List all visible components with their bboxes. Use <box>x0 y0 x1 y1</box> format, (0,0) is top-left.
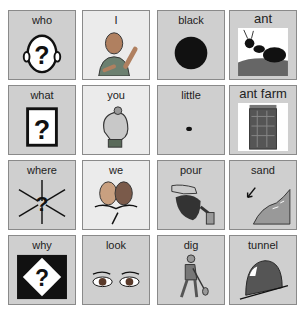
cell-label: you <box>83 89 149 101</box>
cell-we[interactable]: we <box>82 160 150 230</box>
cell-label: what <box>9 89 75 101</box>
cell-label: where <box>9 164 75 176</box>
symbol-board: who ? I black ant what ? you li <box>0 0 303 317</box>
cell-what[interactable]: what ? <box>8 85 76 155</box>
cell-label: we <box>83 164 149 176</box>
tunnel-icon <box>234 253 292 301</box>
cell-tunnel[interactable]: tunnel <box>229 235 297 305</box>
cell-why[interactable]: why ? <box>8 235 76 305</box>
cell-sand[interactable]: sand <box>229 160 297 230</box>
black-circle-icon <box>162 28 220 76</box>
question-arrows-icon: ? <box>13 178 71 226</box>
svg-text:?: ? <box>34 41 49 69</box>
ant-farm-icon <box>234 103 292 151</box>
small-dot-icon <box>162 103 220 151</box>
two-faces-icon <box>87 178 145 226</box>
question-diamond-icon: ? <box>13 253 71 301</box>
cell-label: ant farm <box>230 88 296 100</box>
cell-label: little <box>158 89 224 101</box>
cell-label: sand <box>230 164 296 176</box>
cell-who[interactable]: who ? <box>8 10 76 80</box>
person-self-icon <box>87 28 145 76</box>
cell-label: I <box>83 14 149 26</box>
cell-label: why <box>9 239 75 251</box>
cell-black[interactable]: black <box>157 10 225 80</box>
cell-i[interactable]: I <box>82 10 150 80</box>
svg-text:?: ? <box>36 192 49 215</box>
cell-ant-farm[interactable]: ant farm <box>229 85 297 155</box>
cell-label: ant <box>230 13 296 25</box>
svg-text:?: ? <box>34 115 50 145</box>
cell-label: dig <box>158 239 224 251</box>
question-head-icon: ? <box>13 28 71 76</box>
cell-ant[interactable]: ant <box>229 10 297 80</box>
eyes-icon <box>87 253 145 301</box>
watering-can-icon <box>162 178 220 226</box>
cell-look[interactable]: look <box>82 235 150 305</box>
cell-pour[interactable]: pour <box>157 160 225 230</box>
cell-label: pour <box>158 164 224 176</box>
cell-dig[interactable]: dig <box>157 235 225 305</box>
digging-person-icon <box>162 253 220 301</box>
ant-icon <box>234 28 292 76</box>
cell-little[interactable]: little <box>157 85 225 155</box>
pointing-hand-icon <box>87 103 145 151</box>
cell-label: who <box>9 14 75 26</box>
sand-beach-icon <box>234 178 292 226</box>
cell-label: black <box>158 14 224 26</box>
cell-label: look <box>83 239 149 251</box>
cell-where[interactable]: where ? <box>8 160 76 230</box>
cell-you[interactable]: you <box>82 85 150 155</box>
cell-label: tunnel <box>230 239 296 251</box>
question-box-icon: ? <box>13 103 71 151</box>
svg-text:?: ? <box>35 265 49 291</box>
